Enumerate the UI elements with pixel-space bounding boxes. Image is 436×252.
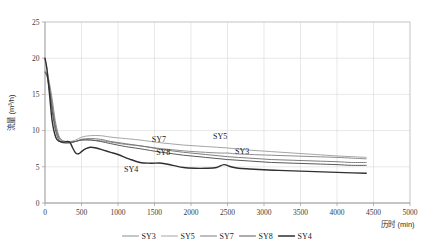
legend-label-sy5: SY5: [181, 232, 195, 241]
legend-label-sy7: SY7: [220, 232, 234, 241]
series-line-sy4: [45, 58, 366, 173]
legend-label-sy3: SY3: [142, 232, 156, 241]
x-tick-label: 2000: [184, 208, 199, 217]
series-line-sy3: [45, 71, 366, 159]
series-line-sy8: [45, 73, 366, 166]
y-tick-label: 5: [36, 163, 40, 172]
x-tick-label: 4000: [330, 208, 345, 217]
x-tick-label: 4500: [366, 208, 381, 217]
x-tick-label: 5000: [403, 208, 418, 217]
y-tick-label: 0: [36, 199, 40, 208]
series-line-sy7: [45, 72, 366, 163]
series-annotation-sy4: SY4: [124, 165, 138, 174]
x-tick-label: 3500: [293, 208, 308, 217]
series-annotation-sy5: SY5: [213, 132, 227, 141]
y-axis-title: 流量 (m³/h): [6, 94, 16, 131]
flow-rate-line-chart: 0510152025050010001500200025003000350040…: [0, 0, 436, 252]
series-annotation-sy3: SY3: [235, 147, 249, 156]
legend-label-sy8: SY8: [259, 232, 273, 241]
series-line-sy5: [45, 59, 366, 157]
x-tick-label: 3000: [257, 208, 272, 217]
y-tick-label: 10: [32, 126, 40, 135]
series-annotation-sy8: SY8: [156, 148, 170, 157]
x-tick-label: 1000: [111, 208, 126, 217]
x-tick-label: 0: [43, 208, 47, 217]
series-annotation-sy7: SY7: [152, 135, 166, 144]
chart-canvas: 0510152025050010001500200025003000350040…: [0, 0, 436, 252]
x-tick-label: 1500: [147, 208, 162, 217]
x-axis-title: 历时 (min): [381, 219, 415, 229]
y-tick-label: 20: [32, 54, 40, 63]
y-tick-label: 25: [32, 18, 40, 27]
x-tick-label: 2500: [220, 208, 235, 217]
y-tick-label: 15: [32, 90, 40, 99]
legend-label-sy4: SY4: [298, 232, 312, 241]
x-tick-label: 500: [76, 208, 88, 217]
